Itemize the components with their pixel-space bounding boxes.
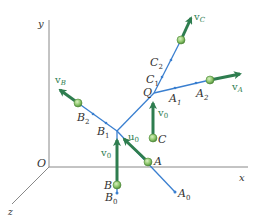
label-C2: C2 xyxy=(150,56,163,71)
dot-A2 xyxy=(195,82,198,85)
velocity-vectors xyxy=(60,18,240,182)
axes: y x z O xyxy=(7,18,248,217)
label-vB: vB xyxy=(54,74,66,87)
label-A0: A0 xyxy=(177,187,190,202)
dot-B0 xyxy=(116,192,119,195)
label-vC: vC xyxy=(193,11,206,24)
dot-B1 xyxy=(105,122,108,125)
z-axis-label: z xyxy=(7,207,13,217)
dot-C2 xyxy=(170,59,173,62)
label-u0: u0 xyxy=(128,131,139,144)
particles xyxy=(74,36,214,189)
vector-vA xyxy=(210,74,240,80)
ball-B-final xyxy=(74,99,82,107)
label-Q: Q xyxy=(143,86,152,99)
ball-B xyxy=(113,181,121,189)
dot-C1 xyxy=(161,76,164,79)
label-A1: A1 xyxy=(168,92,181,107)
y-axis-label: y xyxy=(37,18,44,29)
x-axis-label: x xyxy=(239,172,245,183)
label-vA: vA xyxy=(231,81,243,94)
point-dots xyxy=(92,59,198,195)
label-A: A xyxy=(153,155,162,168)
label-v0-C: v0 xyxy=(157,107,168,120)
ball-A xyxy=(144,158,152,166)
origin-label: O xyxy=(37,157,46,170)
point-labels: Q C2 C1 A1 A2 B2 B1 B B0 C A A0 xyxy=(76,56,209,206)
z-axis xyxy=(12,167,49,204)
dot-A0 xyxy=(174,191,177,194)
dot-A1 xyxy=(174,87,177,90)
ball-A-final xyxy=(206,76,214,84)
label-B1: B1 xyxy=(96,125,110,140)
dot-B2 xyxy=(92,113,95,116)
label-A2: A2 xyxy=(195,87,209,102)
kinematics-diagram: y x z O xyxy=(0,0,257,222)
label-C1: C1 xyxy=(146,73,159,88)
ball-C xyxy=(149,134,157,142)
ball-C-final xyxy=(177,36,185,44)
label-v0-B: v0 xyxy=(100,147,111,160)
label-C: C xyxy=(158,133,167,146)
trajectory-lines xyxy=(78,40,210,193)
label-B2: B2 xyxy=(76,111,90,126)
